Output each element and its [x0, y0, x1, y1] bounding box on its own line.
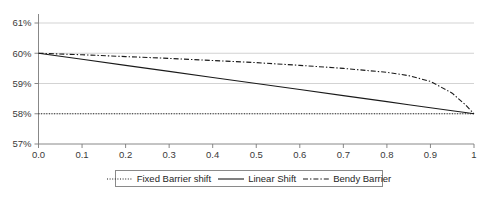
x-axis-tick-label: 0.3: [163, 149, 176, 160]
y-axis-tick-label: 61%: [12, 17, 32, 28]
y-axis-labels: 61%60%59%58%57%: [12, 17, 32, 149]
line-chart: 61%60%59%58%57% 0.00.10.20.30.40.50.60.7…: [0, 0, 498, 197]
legend-label: Fixed Barrier shift: [137, 174, 211, 184]
legend-swatch-dash-dot-icon: [303, 176, 329, 182]
y-axis-ticks: [35, 23, 39, 144]
x-axis-tick-label: 0.0: [32, 149, 45, 160]
y-axis-tick-label: 58%: [12, 108, 32, 119]
gridlines: [39, 23, 475, 114]
y-axis-tick-label: 60%: [12, 48, 32, 59]
legend-swatch-solid-icon: [218, 176, 244, 182]
x-axis-tick-label: 0.1: [75, 149, 88, 160]
legend-item[interactable]: Linear Shift: [218, 174, 296, 184]
y-axis-tick-label: 59%: [12, 78, 32, 89]
legend-swatch-dotted-icon: [107, 176, 133, 182]
x-axis-tick-label: 0.8: [380, 149, 393, 160]
plot-area: 61%60%59%58%57% 0.00.10.20.30.40.50.60.7…: [0, 0, 498, 197]
x-axis-ticks: [39, 144, 475, 148]
x-axis-tick-label: 0.6: [293, 149, 306, 160]
x-axis-tick-label: 1: [471, 149, 476, 160]
x-axis-labels: 0.00.10.20.30.40.50.60.70.80.91: [32, 149, 477, 160]
x-axis-tick-label: 0.7: [337, 149, 350, 160]
legend-item[interactable]: Bendy Barrier: [303, 174, 391, 184]
x-axis-tick-label: 0.2: [119, 149, 132, 160]
legend-label: Bendy Barrier: [333, 174, 391, 184]
chart-legend: Fixed Barrier shiftLinear ShiftBendy Bar…: [115, 170, 383, 187]
legend-label: Linear Shift: [248, 174, 296, 184]
legend-item[interactable]: Fixed Barrier shift: [107, 174, 211, 184]
x-axis-tick-label: 0.4: [206, 149, 219, 160]
x-axis-tick-label: 0.9: [424, 149, 437, 160]
x-axis-tick-label: 0.5: [250, 149, 263, 160]
y-axis-tick-label: 57%: [12, 138, 32, 149]
